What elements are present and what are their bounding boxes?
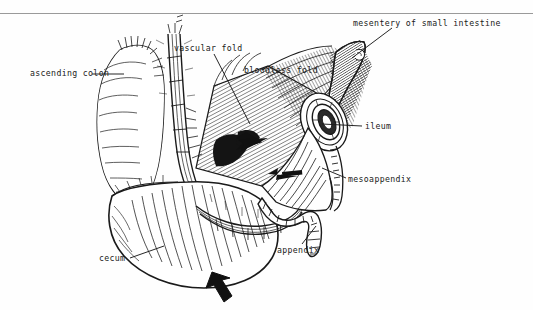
cecum-structure <box>109 175 278 288</box>
label-bloodless-fold: bloodless fold <box>244 66 318 74</box>
label-ascending-colon: ascending colon <box>30 69 109 77</box>
label-mesoappendix: mesoappendix <box>348 175 411 183</box>
label-cecum: cecum <box>99 254 125 262</box>
label-ileum: ileum <box>365 122 391 130</box>
label-mesentery-of-small-intestine: mesentery of small intestine <box>353 19 501 27</box>
label-vascular-fold: vascular fold <box>174 44 243 52</box>
label-appendix: appendix <box>277 246 319 254</box>
illustration-page: mesentery of small intestine vascular fo… <box>0 0 533 310</box>
anatomical-figure <box>0 0 533 310</box>
